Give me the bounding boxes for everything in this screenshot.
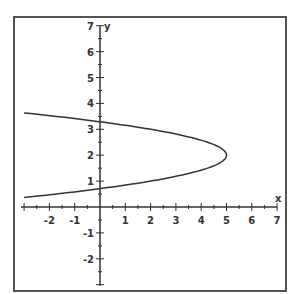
y-tick-label: 5 <box>87 73 94 84</box>
y-tick-label: 4 <box>87 98 94 109</box>
x-tick-label: 6 <box>248 215 255 226</box>
x-tick-label: 4 <box>198 215 205 226</box>
x-tick-label: -1 <box>69 215 80 226</box>
x-tick-label: 7 <box>274 215 281 226</box>
x-tick-label: 1 <box>122 215 129 226</box>
x-tick-label: 5 <box>223 215 230 226</box>
x-tick-label: 2 <box>147 215 154 226</box>
y-tick-label: 7 <box>87 21 94 32</box>
parabola-curve <box>24 113 226 198</box>
y-tick-label: 3 <box>87 124 94 135</box>
y-tick-label: -1 <box>83 228 94 239</box>
tick-labels: -2-11234567-2-11234567 <box>44 21 281 265</box>
axes <box>21 26 277 286</box>
y-tick-label: -2 <box>83 254 94 265</box>
y-tick-label: 2 <box>87 150 94 161</box>
y-tick-label: 6 <box>87 47 94 58</box>
x-tick-label: -2 <box>44 215 55 226</box>
y-axis-label: y <box>104 21 111 32</box>
y-tick-label: 1 <box>87 176 94 187</box>
x-tick-label: 3 <box>172 215 179 226</box>
plot-area: -2-11234567-2-11234567 x y <box>0 0 295 294</box>
tick-marks <box>24 26 277 285</box>
x-axis-label: x <box>275 193 282 204</box>
